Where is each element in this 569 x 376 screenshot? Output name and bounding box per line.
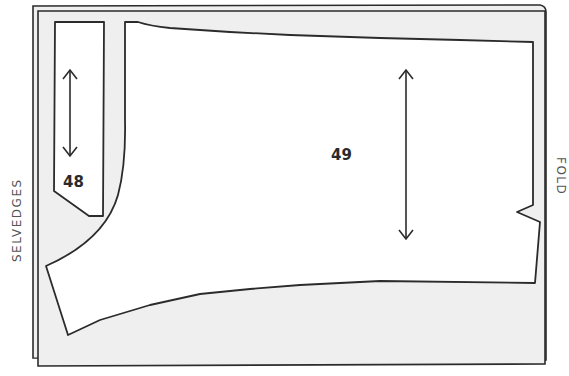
fold-label: FOLD xyxy=(554,157,568,195)
selvedges-label: SELVEDGES xyxy=(10,178,24,262)
pattern-layout-diagram: 48 49 SELVEDGES FOLD xyxy=(0,0,569,376)
piece-label-49: 49 xyxy=(331,146,352,164)
piece-label-48: 48 xyxy=(63,173,84,191)
